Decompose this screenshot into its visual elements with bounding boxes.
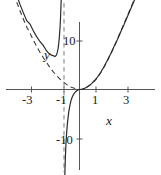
y-tick-label-pos10: 10 xyxy=(63,35,76,48)
plot-canvas xyxy=(0,0,161,175)
x-tick-label-neg3: -3 xyxy=(22,94,32,107)
x-tick-label-pos1: 1 xyxy=(92,94,98,107)
x-axis-label: x xyxy=(106,114,112,128)
function-graph-figure: y x -3 -1 1 3 10 -10 xyxy=(0,0,161,175)
x-tick-label-neg1: -1 xyxy=(56,94,66,107)
solid-curve-left-branch xyxy=(17,0,62,57)
solid-curve-right-branch xyxy=(65,0,137,175)
x-tick-label-pos3: 3 xyxy=(123,94,129,107)
dashed-comparison-curve xyxy=(17,0,136,90)
y-axis-label: y xyxy=(44,48,50,62)
y-tick-label-neg10: -10 xyxy=(56,134,73,147)
